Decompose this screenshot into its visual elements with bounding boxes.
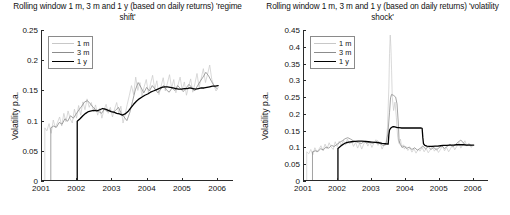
legend-item[interactable]: 1 m <box>314 39 351 48</box>
y-tick-label: 0.45 <box>284 26 300 35</box>
legend-label: 3 m <box>339 48 351 57</box>
x-tick-mark <box>473 178 474 181</box>
y-tick-label: 0.15 <box>22 86 38 95</box>
legend-swatch-icon <box>314 61 336 62</box>
series-line-3m <box>312 94 471 181</box>
legend-swatch-icon <box>314 52 336 53</box>
y-tick-label: 0.25 <box>22 26 38 35</box>
y-tick-mark <box>303 114 306 115</box>
legend-label: 3 m <box>77 48 89 57</box>
y-tick-label: 0.1 <box>27 116 38 125</box>
x-tick-label: 2005 <box>430 184 448 193</box>
legend-label: 1 m <box>339 39 351 48</box>
y-tick-mark <box>41 60 44 61</box>
y-tick-mark <box>303 147 306 148</box>
x-tick-mark <box>147 178 148 181</box>
y-tick-mark <box>303 131 306 132</box>
y-tick-label: 0.1 <box>289 143 300 152</box>
y-tick-label: 0.2 <box>27 56 38 65</box>
y-tick-label: 0.05 <box>284 160 300 169</box>
chart-panel-volatility-shock: Rolling window 1 m, 3 m and 1 y (based o… <box>255 0 510 215</box>
legend-swatch-icon <box>52 61 74 62</box>
x-tick-mark <box>439 178 440 181</box>
y-tick-mark <box>41 151 44 152</box>
y-tick-mark <box>41 30 44 31</box>
x-tick-label: 2004 <box>396 184 414 193</box>
x-tick-label: 2005 <box>173 184 191 193</box>
legend-swatch-icon <box>52 52 74 53</box>
y-tick-mark <box>303 97 306 98</box>
legend-swatch-icon <box>52 43 74 44</box>
y-tick-label: 0.4 <box>289 42 300 51</box>
legend-right[interactable]: 1 m3 m1 y <box>310 36 355 69</box>
y-tick-label: 0.15 <box>284 126 300 135</box>
y-axis-label-left: Volatility p.a. <box>10 92 20 140</box>
y-tick-label: 0.35 <box>284 59 300 68</box>
y-tick-mark <box>303 47 306 48</box>
x-tick-mark <box>111 178 112 181</box>
y-tick-mark <box>41 90 44 91</box>
series-line-1y <box>304 127 474 181</box>
y-tick-mark <box>41 121 44 122</box>
legend-item[interactable]: 3 m <box>52 48 89 57</box>
y-tick-mark <box>303 164 306 165</box>
y-tick-label: 0.25 <box>284 93 300 102</box>
y-tick-mark <box>303 30 306 31</box>
x-tick-mark <box>405 178 406 181</box>
x-tick-label: 2002 <box>328 184 346 193</box>
x-tick-label: 2002 <box>67 184 85 193</box>
legend-item[interactable]: 3 m <box>314 48 351 57</box>
figure-container: Rolling window 1 m, 3 m and 1 y (based o… <box>0 0 510 215</box>
y-axis-label-right: Volatility p.a. <box>260 92 270 140</box>
y-tick-mark <box>303 64 306 65</box>
x-tick-mark <box>76 178 77 181</box>
x-tick-mark <box>217 178 218 181</box>
legend-swatch-icon <box>314 43 336 44</box>
y-tick-mark <box>303 80 306 81</box>
x-tick-mark <box>303 178 304 181</box>
legend-label: 1 m <box>77 39 89 48</box>
y-tick-label: 0.05 <box>22 146 38 155</box>
x-tick-label: 2003 <box>362 184 380 193</box>
legend-label: 1 y <box>77 57 87 66</box>
legend-item[interactable]: 1 y <box>314 57 351 66</box>
chart-panel-regime-shift: Rolling window 1 m, 3 m and 1 y (based o… <box>0 0 255 215</box>
x-tick-mark <box>337 178 338 181</box>
series-line-1y <box>42 86 218 181</box>
x-tick-label: 2006 <box>208 184 226 193</box>
y-tick-mark <box>303 181 306 182</box>
x-tick-label: 2001 <box>294 184 312 193</box>
y-tick-label: 0.3 <box>289 76 300 85</box>
x-tick-mark <box>182 178 183 181</box>
x-tick-mark <box>41 178 42 181</box>
legend-label: 1 y <box>339 57 349 66</box>
y-tick-mark <box>41 181 44 182</box>
series-line-1m <box>45 65 218 181</box>
legend-item[interactable]: 1 y <box>52 57 89 66</box>
legend-item[interactable]: 1 m <box>52 39 89 48</box>
x-tick-label: 2006 <box>464 184 482 193</box>
x-tick-mark <box>371 178 372 181</box>
legend-left[interactable]: 1 m3 m1 y <box>48 36 93 69</box>
x-tick-label: 2003 <box>103 184 121 193</box>
y-tick-label: 0.2 <box>289 109 300 118</box>
chart-title-right: Rolling window 1 m, 3 m and 1 y (based o… <box>255 2 510 23</box>
x-tick-label: 2004 <box>138 184 156 193</box>
x-tick-label: 2001 <box>32 184 50 193</box>
chart-title-left: Rolling window 1 m, 3 m and 1 y (based o… <box>0 2 255 23</box>
